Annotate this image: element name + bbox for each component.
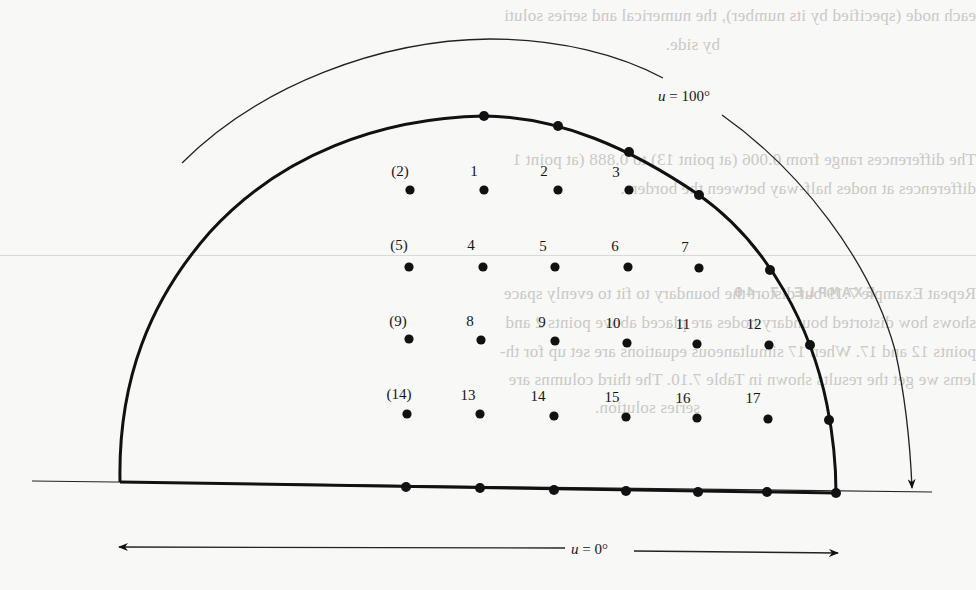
boundary-node-dot <box>765 265 775 275</box>
node-label: 8 <box>466 314 474 329</box>
boundary-node-dot <box>831 488 841 498</box>
interior-node-dot <box>550 262 559 271</box>
node-label: (2) <box>391 164 409 179</box>
bottom-arrow-left <box>119 547 565 548</box>
semicircle-grid-diagram <box>0 0 976 590</box>
node-label: (14) <box>387 387 412 402</box>
boundary-node-dot <box>479 111 489 121</box>
boundary-node-dot <box>824 415 834 425</box>
interior-node-dot <box>405 185 414 194</box>
node-label: 12 <box>747 317 762 332</box>
boundary-node-dot <box>401 482 411 492</box>
node-label: 5 <box>539 239 547 254</box>
bottom-eq: = 0° <box>579 541 608 557</box>
boundary-curve <box>120 116 836 493</box>
boundary-node-dot <box>693 487 703 497</box>
boundary-node-dot <box>475 483 485 493</box>
interior-node-dot <box>549 411 558 420</box>
bottom-boundary-label: u = 0° <box>571 542 608 557</box>
boundary-node-dot <box>553 121 563 131</box>
node-label: 7 <box>681 240 689 255</box>
top-eq: = 100° <box>666 88 710 104</box>
interior-node-dot <box>476 335 485 344</box>
interior-node-dot <box>624 185 633 194</box>
node-label: 17 <box>746 391 761 406</box>
bottom-arrow-right <box>634 551 838 553</box>
interior-node-dot <box>550 336 559 345</box>
node-label: 11 <box>676 317 690 332</box>
node-label: 9 <box>538 315 546 330</box>
interior-node-dot <box>475 409 484 418</box>
node-label: 13 <box>461 388 476 403</box>
interior-node-dot <box>402 409 411 418</box>
interior-nodes <box>402 185 773 423</box>
bottom-var: u <box>571 541 579 557</box>
figure-page: each node (specified by its number), the… <box>0 0 976 590</box>
node-label: 2 <box>540 164 548 179</box>
node-label: 15 <box>605 390 620 405</box>
interior-node-dot <box>692 339 701 348</box>
interior-node-dot <box>553 185 562 194</box>
node-label: (5) <box>390 238 408 253</box>
interior-node-dot <box>621 412 630 421</box>
interior-node-dot <box>479 185 488 194</box>
boundary-node-dot <box>621 486 631 496</box>
top-boundary-label: u = 100° <box>658 89 710 104</box>
node-label: 6 <box>611 239 619 254</box>
boundary-node-dot <box>762 487 772 497</box>
interior-node-dot <box>692 413 701 422</box>
node-label: (9) <box>389 314 407 329</box>
outer-arc-right <box>722 115 912 488</box>
node-label: 16 <box>676 391 691 406</box>
node-label: 10 <box>606 316 621 331</box>
top-var: u <box>658 88 666 104</box>
interior-node-dot <box>694 263 703 272</box>
boundary-node-dot <box>549 485 559 495</box>
interior-node-dot <box>404 334 413 343</box>
boundary-node-dot <box>624 147 634 157</box>
boundary-node-dot <box>694 190 704 200</box>
interior-node-dot <box>763 414 772 423</box>
interior-node-dot <box>623 262 632 271</box>
node-label: 14 <box>531 389 546 404</box>
node-label: 3 <box>612 165 620 180</box>
boundary-nodes <box>401 111 841 498</box>
outer-arc-left <box>182 39 663 163</box>
interior-node-dot <box>404 262 413 271</box>
interior-node-dot <box>622 338 631 347</box>
boundary-node-dot <box>805 340 815 350</box>
node-label: 1 <box>470 164 478 179</box>
node-label: 4 <box>467 238 475 253</box>
interior-node-dot <box>478 262 487 271</box>
interior-node-dot <box>764 340 773 349</box>
